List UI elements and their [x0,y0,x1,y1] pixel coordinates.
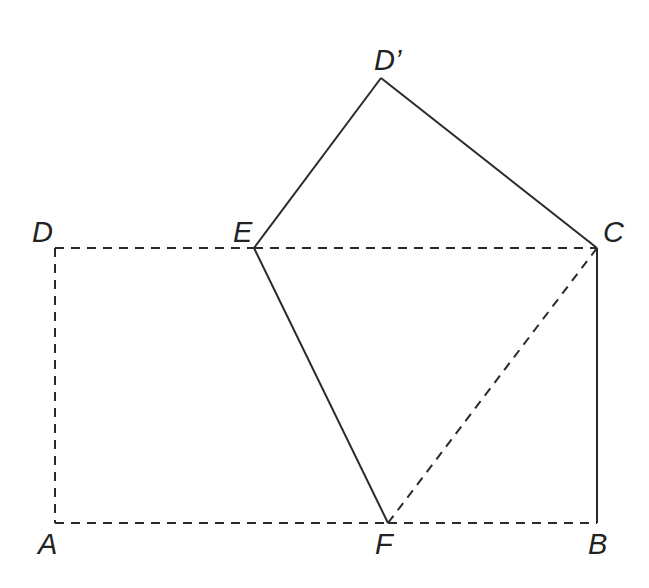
segment-ED-prime [254,78,381,248]
label-D-prime: D’ [374,44,402,76]
geometry-diagram: D E C D’ A F B [0,0,649,588]
label-E: E [233,216,253,248]
label-A: A [36,528,57,560]
segment-D-primeC [381,78,597,248]
segment-FC [388,248,597,523]
label-D: D [32,216,53,248]
segment-EF [254,248,388,523]
label-C: C [603,216,625,248]
label-B: B [588,528,607,560]
label-F: F [375,528,395,560]
